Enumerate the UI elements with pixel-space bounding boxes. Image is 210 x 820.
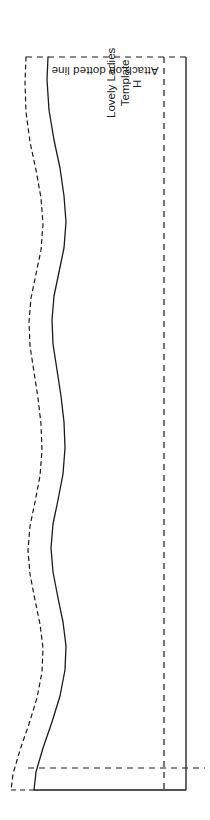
cutting-line-solid bbox=[34, 57, 66, 790]
pattern-sheet: Attach on dotted line Lovely Ladies Temp… bbox=[0, 0, 210, 820]
pattern-drawing bbox=[0, 0, 210, 820]
seam-allowance-dashed bbox=[11, 57, 43, 790]
size-marker-label: H bbox=[131, 80, 145, 88]
template-title: Lovely Ladies Template bbox=[105, 48, 132, 118]
template-title-line-1: Lovely Ladies bbox=[105, 48, 119, 118]
